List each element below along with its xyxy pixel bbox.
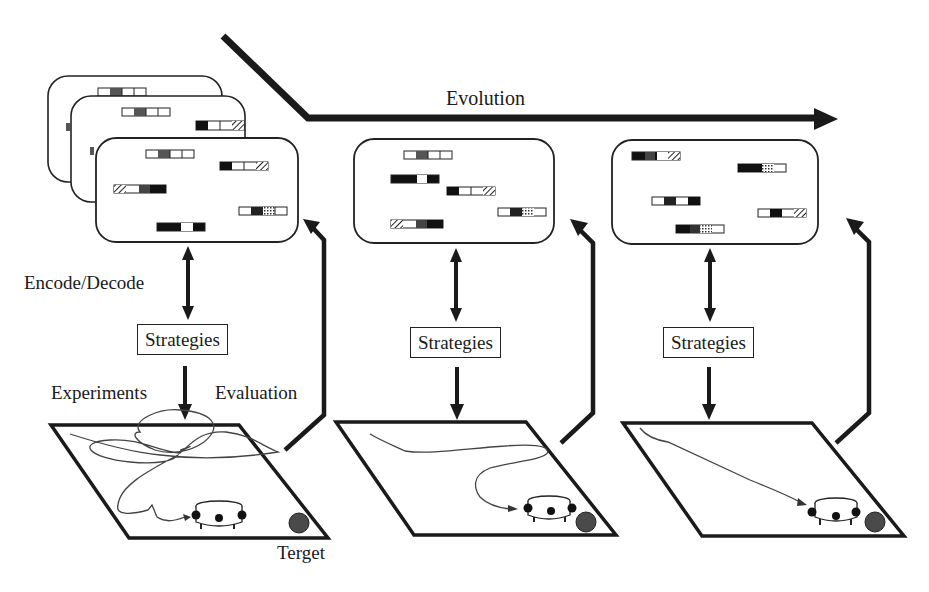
target-stage-1: [289, 513, 309, 533]
arena-stage-3: [623, 423, 904, 536]
population-stage-2: [354, 139, 554, 243]
encode-decode-label: Encode/Decode: [24, 273, 144, 292]
experiments-label: Experiments: [51, 383, 147, 402]
evolutionary-robotics-diagram: Evolution Encode/Decode Experiments Eval…: [0, 0, 929, 592]
encode-decode-arrows: [182, 246, 716, 322]
target-stage-2: [576, 512, 596, 532]
population-stack-stage-1: [48, 76, 298, 242]
arena-stage-1: [51, 410, 328, 538]
evaluation-arrows: [285, 218, 869, 450]
strategies-box-stage-1: Strategies: [137, 324, 228, 355]
target-label: Terget: [277, 543, 325, 562]
strategies-box-stage-3: Strategies: [663, 327, 754, 358]
target-stage-3: [865, 512, 885, 532]
evaluation-label: Evaluation: [215, 383, 297, 402]
evolution-label: Evolution: [446, 88, 525, 108]
evolution-arrow: [223, 36, 838, 130]
arena-stage-2: [336, 422, 616, 535]
population-stage-3: [612, 140, 818, 244]
strategies-box-stage-2: Strategies: [410, 327, 501, 358]
